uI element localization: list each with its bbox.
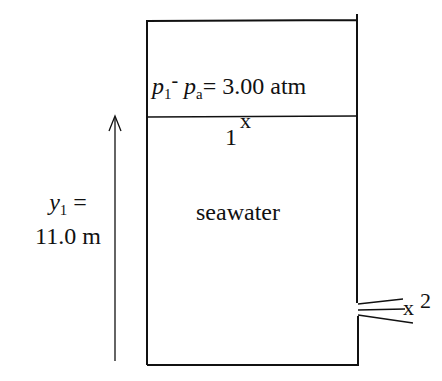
height-value: 11.0 m [18,224,118,248]
fluid-label: seawater [196,200,280,224]
equals-sign: = [73,189,87,215]
y1-subscript: 1 [60,202,67,218]
pa-symbol: p [184,73,196,99]
pressure-difference-label: p1- pa= 3.00 atm [152,70,306,102]
jet-stream-middle [358,309,405,310]
tank-outline [147,14,358,365]
point-1-marker: x [240,110,251,132]
pa-subscript: a [196,86,203,102]
point-2-marker: x [403,297,414,319]
jet-stream-upper [358,299,403,304]
p1-symbol: p [152,73,164,99]
minus-sign: - [171,69,178,91]
y1-symbol: y [49,189,60,215]
pressure-value: = 3.00 atm [203,73,307,99]
point-1-label: 1 [225,125,237,149]
point-2-label: 2 [420,290,431,312]
height-label: y1 = 11.0 m [18,190,118,248]
water-surface-line [147,116,357,117]
